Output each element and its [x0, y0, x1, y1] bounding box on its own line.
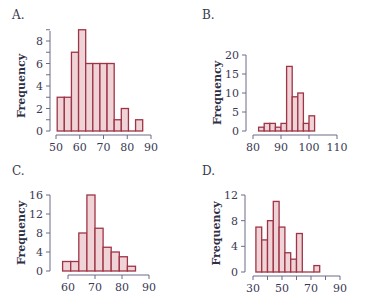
histogram-bar: [262, 240, 268, 272]
histogram-bar: [79, 30, 86, 131]
x-tick-label: 110: [327, 141, 348, 154]
y-tick-label: 6: [36, 58, 43, 71]
y-axis-label: Frequency: [15, 200, 28, 265]
histogram-bar: [281, 123, 287, 131]
y-tick-label: 4: [36, 80, 43, 93]
x-tick-label: 70: [97, 141, 111, 154]
histogram-bar: [114, 120, 121, 131]
histogram-bar: [107, 64, 114, 132]
histogram-bar: [279, 227, 285, 272]
histogram-bar: [268, 221, 274, 272]
histogram-bar: [93, 64, 100, 132]
x-tick-label: 90: [333, 282, 347, 295]
x-tick-label: 60: [61, 281, 75, 294]
y-axis-label: Frequency: [211, 60, 224, 125]
x-tick-label: 100: [299, 141, 320, 154]
histogram-grid: 506070809002468Frequency8090100110051015…: [0, 0, 367, 305]
histogram-bar: [292, 97, 298, 131]
histogram-bar: [270, 123, 276, 131]
y-tick-label: 0: [232, 125, 239, 138]
y-tick-label: 12: [29, 208, 43, 221]
histogram-bar: [259, 127, 265, 131]
y-tick-label: 5: [232, 106, 239, 119]
x-tick-label: 80: [115, 281, 129, 294]
y-tick-label: 8: [36, 227, 43, 240]
histogram-bar: [71, 262, 79, 272]
y-tick-label: 0: [36, 125, 43, 138]
histogram-b: 809010011005101520Frequency: [211, 49, 348, 154]
x-tick-label: 50: [275, 282, 289, 295]
histogram-bar: [136, 120, 143, 131]
histogram-bar: [127, 266, 135, 271]
histogram-bar: [309, 116, 315, 131]
y-tick-label: 8: [36, 35, 43, 48]
histogram-bar: [103, 247, 111, 271]
histogram-bar: [273, 201, 279, 272]
histogram-bar: [287, 66, 293, 131]
y-axis-label: Frequency: [210, 201, 223, 266]
y-tick-label: 20: [225, 49, 239, 62]
histogram-bar: [297, 234, 303, 273]
histogram-bar: [275, 127, 281, 131]
histogram-bar: [63, 262, 71, 272]
histogram-bar: [100, 64, 107, 132]
y-tick-label: 16: [29, 189, 43, 202]
x-tick-label: 90: [142, 281, 156, 294]
histogram-c: 607080900481216Frequency: [15, 189, 156, 294]
y-tick-label: 15: [225, 68, 239, 81]
x-tick-label: 80: [120, 141, 134, 154]
histogram-bar: [264, 123, 270, 131]
histogram-bar: [298, 93, 304, 131]
histogram-bar: [71, 52, 78, 131]
x-tick-label: 80: [246, 141, 260, 154]
x-tick-label: 30: [246, 282, 260, 295]
y-tick-label: 12: [224, 189, 238, 202]
histogram-a: 506070809002468Frequency: [15, 30, 158, 154]
x-tick-label: 70: [304, 282, 318, 295]
histogram-bar: [79, 233, 87, 271]
histogram-bar: [111, 252, 119, 271]
histogram-bar: [303, 123, 309, 131]
y-tick-label: 2: [36, 103, 43, 116]
y-tick-label: 0: [231, 266, 238, 279]
y-tick-label: 0: [36, 265, 43, 278]
y-tick-label: 4: [231, 240, 238, 253]
histogram-bar: [314, 266, 320, 272]
histogram-bar: [87, 195, 95, 271]
histogram-d: 3050709004812Frequency: [210, 189, 347, 295]
y-tick-label: 4: [36, 246, 43, 259]
histogram-bar: [86, 64, 93, 132]
x-tick-label: 50: [49, 141, 63, 154]
x-tick-label: 90: [144, 141, 158, 154]
histogram-bar: [119, 257, 127, 271]
histogram-bar: [57, 97, 64, 131]
x-tick-label: 60: [73, 141, 87, 154]
histogram-bar: [95, 228, 103, 271]
histogram-bar: [256, 227, 262, 272]
histogram-bar: [64, 97, 71, 131]
histogram-bar: [121, 109, 128, 132]
y-axis-label: Frequency: [15, 53, 28, 118]
y-tick-label: 8: [231, 215, 238, 228]
x-tick-label: 70: [88, 281, 102, 294]
histogram-bar: [285, 253, 291, 272]
y-tick-label: 10: [225, 87, 239, 100]
histogram-bar: [291, 259, 297, 272]
x-tick-label: 90: [274, 141, 288, 154]
